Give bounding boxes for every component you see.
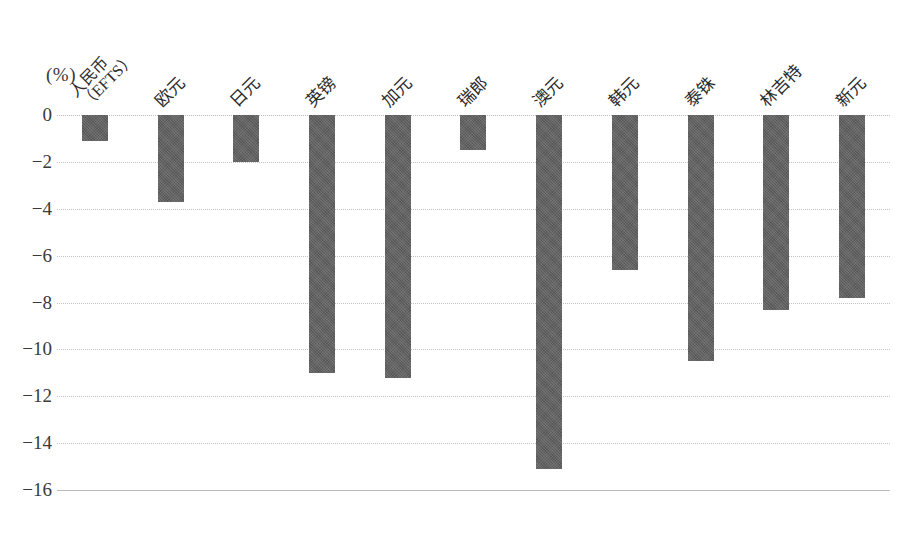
bar-slot	[436, 115, 512, 490]
x-axis-tick-label-line1: 欧元	[151, 74, 188, 111]
bar-chart: (%) 0−2−4−6−8−10−12−14−16 人民币（EFTS）欧元日元英…	[0, 0, 920, 533]
x-axis-tick-label: 加元	[379, 74, 416, 111]
bar[interactable]	[536, 115, 562, 469]
bar[interactable]	[688, 115, 714, 361]
y-axis-tick-label: −16	[6, 479, 52, 501]
x-axis-tick-label: 日元	[228, 74, 265, 111]
y-axis-tick-label: −4	[6, 198, 52, 220]
x-axis-tick-label-line1: 林吉特	[757, 62, 806, 111]
y-axis: 0−2−4−6−8−10−12−14−16	[0, 0, 52, 533]
x-axis-tick-label: 韩元	[606, 74, 643, 111]
x-axis-tick-label-line1: 加元	[378, 74, 415, 111]
y-axis-tick-label: 0	[6, 104, 52, 126]
bar-series	[57, 115, 890, 490]
x-axis-tick-label: 人民币（EFTS）	[66, 39, 138, 111]
x-axis-tick-label-line1: 日元	[227, 74, 264, 111]
bar[interactable]	[233, 115, 259, 162]
y-axis-tick-label: −8	[6, 292, 52, 314]
x-axis-tick-label: 欧元	[152, 74, 189, 111]
bar-slot	[360, 115, 436, 490]
bar[interactable]	[309, 115, 335, 373]
x-axis-tick-label-line1: 泰铢	[681, 74, 718, 111]
bar-slot	[663, 115, 739, 490]
bar-slot	[511, 115, 587, 490]
x-axis-tick-label: 英镑	[303, 74, 340, 111]
x-axis-tick-label-line1: 韩元	[606, 74, 643, 111]
x-axis-tick-label: 新元	[834, 74, 871, 111]
x-axis-category-labels: 人民币（EFTS）欧元日元英镑加元瑞郎澳元韩元泰铢林吉特新元	[57, 0, 890, 115]
y-axis-tick-label: −6	[6, 245, 52, 267]
x-axis-tick-label: 瑞郎	[455, 74, 492, 111]
x-axis-tick-label: 泰铢	[682, 74, 719, 111]
x-axis-tick-label-line1: 英镑	[303, 74, 340, 111]
bar[interactable]	[158, 115, 184, 202]
bar-slot	[587, 115, 663, 490]
bar[interactable]	[385, 115, 411, 378]
x-axis-tick-label-line1: 新元	[833, 74, 870, 111]
bar[interactable]	[763, 115, 789, 310]
bar-slot	[133, 115, 209, 490]
bar-slot	[208, 115, 284, 490]
bar-slot	[739, 115, 815, 490]
bar[interactable]	[839, 115, 865, 298]
gridline	[57, 490, 890, 491]
plot-area	[57, 115, 890, 490]
x-axis-tick-label: 林吉特	[758, 62, 807, 111]
y-axis-tick-label: −12	[6, 385, 52, 407]
y-axis-tick-label: −14	[6, 432, 52, 454]
bar-slot	[814, 115, 890, 490]
x-axis-tick-label-line1: 澳元	[530, 74, 567, 111]
bar[interactable]	[82, 115, 108, 141]
bar-slot	[57, 115, 133, 490]
bar[interactable]	[612, 115, 638, 270]
x-axis-tick-label: 澳元	[531, 74, 568, 111]
bar-slot	[284, 115, 360, 490]
x-axis-tick-label-line1: 瑞郎	[454, 74, 491, 111]
y-axis-tick-label: −2	[6, 151, 52, 173]
bar[interactable]	[460, 115, 486, 150]
y-axis-tick-label: −10	[6, 338, 52, 360]
